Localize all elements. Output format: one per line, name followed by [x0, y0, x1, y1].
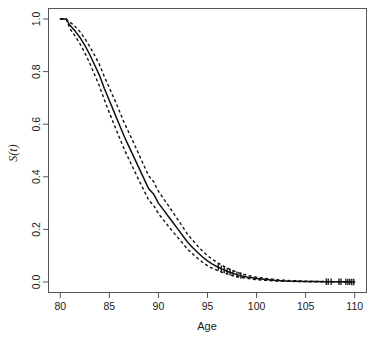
- y-tick-label-0.8: 0.8: [30, 64, 42, 79]
- survival-plot-figure: 80859095100105110 0.00.20.40.60.81.0 Age…: [0, 0, 386, 342]
- x-tick-label-95: 95: [202, 300, 214, 312]
- y-axis-title: S(t): [6, 144, 20, 161]
- y-tick-label-1.0: 1.0: [30, 12, 42, 27]
- x-tick-label-90: 90: [153, 300, 165, 312]
- x-tick-label-110: 110: [346, 300, 363, 312]
- y-tick-label-0.2: 0.2: [30, 222, 42, 237]
- x-tick-label-80: 80: [54, 300, 66, 312]
- x-tick-label-100: 100: [248, 300, 266, 312]
- chart-background: [0, 0, 386, 342]
- y-tick-label-0.4: 0.4: [30, 169, 42, 184]
- x-axis-title: Age: [197, 320, 217, 332]
- x-tick-label-85: 85: [104, 300, 116, 312]
- x-tick-label-105: 105: [297, 300, 315, 312]
- kaplan-meier-chart: 80859095100105110 0.00.20.40.60.81.0 Age…: [0, 0, 386, 342]
- y-tick-label-0.6: 0.6: [30, 117, 42, 132]
- y-tick-label-0.0: 0.0: [30, 275, 42, 290]
